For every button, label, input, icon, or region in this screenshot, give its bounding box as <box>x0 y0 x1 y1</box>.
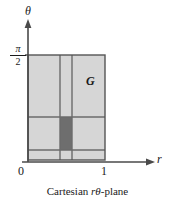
region-label-g: G <box>86 75 95 87</box>
caption-prefix: Cartesian <box>47 185 91 197</box>
pi-numerator: π <box>10 44 26 55</box>
figure-caption: Cartesian rθ-plane <box>0 185 175 197</box>
caption-suffix: -plane <box>101 185 128 197</box>
r-axis-label: r <box>157 153 162 165</box>
highlighted-subrectangle <box>60 117 72 150</box>
cartesian-r-theta-figure: θ r π 2 0 1 G Cartesian rθ-plane <box>0 0 175 203</box>
tick-label-pi-over-two: π 2 <box>10 44 26 67</box>
r-axis-arrowhead <box>146 159 155 166</box>
r-tick-label-one: 1 <box>101 165 107 177</box>
caption-variables: rθ <box>91 185 101 197</box>
theta-axis-arrowhead <box>25 19 32 28</box>
theta-axis-label: θ <box>25 5 31 17</box>
figure-canvas <box>0 0 175 203</box>
two-denominator: 2 <box>10 56 26 67</box>
origin-tick-label: 0 <box>18 165 24 177</box>
